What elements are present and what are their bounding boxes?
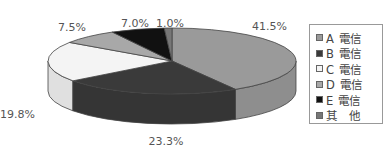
legend-label: D 電信 [326,76,363,92]
legend-item: B 電信 [316,46,382,62]
data-label-5: 1.0% [156,17,184,30]
data-label-3: 7.5% [58,21,86,34]
data-label-0: 41.5% [252,20,287,33]
legend-swatch [316,96,323,103]
legend-label: E 電信 [326,92,361,108]
legend-swatch [316,65,323,72]
legend-item: D 電信 [316,77,382,93]
legend-swatch [316,81,323,88]
legend-label: B 電信 [326,45,362,61]
legend-label: A 電信 [326,30,362,46]
legend-item: 其 他 [316,108,382,124]
data-label-1: 23.3% [149,135,184,148]
data-label-4: 7.0% [121,17,149,30]
legend-label: C 電信 [326,61,362,77]
pie-chart: 41.5%23.3%19.8%7.5%7.0%1.0% [0,0,310,152]
legend-item: A 電信 [316,30,382,46]
legend-swatch [316,112,323,119]
legend-item: E 電信 [316,92,382,108]
legend-swatch [316,34,323,41]
data-label-2: 19.8% [0,108,35,121]
legend-item: C 電信 [316,61,382,77]
legend: A 電信B 電信C 電信D 電信E 電信其 他 [309,24,383,124]
legend-label: 其 他 [326,107,361,123]
legend-swatch [316,50,323,57]
